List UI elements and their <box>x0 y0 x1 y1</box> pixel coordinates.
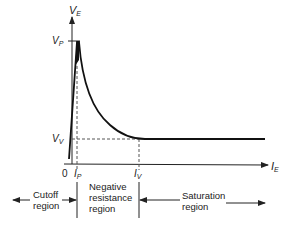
characteristic-curve <box>69 42 265 159</box>
x-axis <box>64 164 268 165</box>
cutoff-label-1: Cutoff <box>33 189 59 200</box>
negative-label-3: region <box>89 203 115 214</box>
cutoff-label-2: region <box>33 200 59 211</box>
peak-current-label: IP <box>74 168 82 180</box>
valley-voltage-label: VV <box>52 133 65 145</box>
peak-voltage-label: VP <box>52 35 64 47</box>
origin-label: 0 <box>62 168 68 179</box>
saturation-label-1: Saturation <box>182 190 225 201</box>
ujt-characteristic-diagram: VE IE 0 VP VV IP IV Cutoff region Negati… <box>0 0 292 232</box>
valley-current-label: IV <box>134 168 143 180</box>
y-axis-label: VE <box>69 4 81 17</box>
saturation-label-2: region <box>182 201 208 212</box>
negative-label-1: Negative <box>89 181 127 192</box>
negative-label-2: resistance <box>89 192 132 203</box>
x-axis-label: IE <box>271 160 279 173</box>
